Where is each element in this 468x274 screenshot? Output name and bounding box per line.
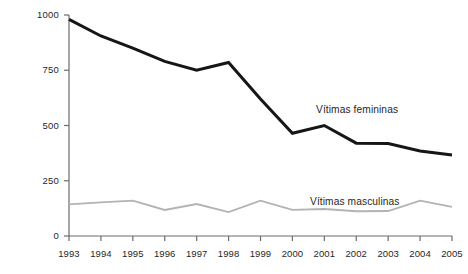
y-axis-tick-label: 250: [25, 175, 59, 186]
series-annotation-1: Vítimas femininas: [316, 104, 398, 115]
series-annotation-2: Vítimas masculinas: [310, 196, 400, 207]
y-axis-tick-label: 750: [25, 64, 59, 75]
x-axis-tick-label: 1999: [244, 248, 278, 259]
x-axis-tick-label: 1997: [180, 248, 214, 259]
x-axis-tick-label: 2002: [339, 248, 373, 259]
chart-container: Agressões por 100 mil homens ou mulheres…: [0, 0, 468, 274]
x-axis-tick-label: 2000: [275, 248, 309, 259]
x-axis-tick-label: 1998: [212, 248, 246, 259]
x-axis-tick-label: 2005: [435, 248, 468, 259]
x-axis-tick-label: 1994: [84, 248, 118, 259]
series-line-1: [69, 19, 452, 154]
x-axis-tick-label: 2004: [403, 248, 437, 259]
x-axis-tick-label: 1996: [148, 248, 182, 259]
x-axis-tick-label: 2003: [371, 248, 405, 259]
y-axis-tick-label: 500: [25, 120, 59, 131]
y-axis-tick-label: 0: [25, 230, 59, 241]
x-axis-tick-label: 1993: [52, 248, 86, 259]
x-axis-tick-label: 1995: [116, 248, 150, 259]
x-axis-tick-label: 2001: [307, 248, 341, 259]
plot-area: [0, 0, 468, 274]
y-axis-tick-label: 1000: [25, 9, 59, 20]
